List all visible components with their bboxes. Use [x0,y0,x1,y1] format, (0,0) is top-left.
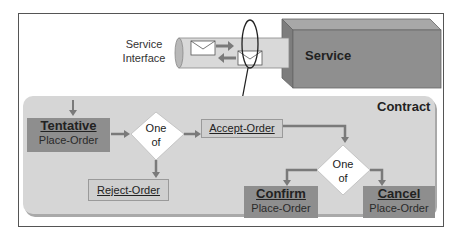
state-tentative[interactable]: Tentative Place-Order [27,118,110,152]
choice-label-2-line1: One [333,158,354,170]
state-cancel-subtitle: Place-Order [363,201,435,215]
choice-label-2: One of [328,157,358,185]
connector-accept-to-choice [282,126,349,143]
arrow-down-icon [69,100,77,116]
state-confirm-subtitle: Place-Order [244,201,318,215]
choice-label-2-line2: of [338,172,347,184]
state-tentative-subtitle: Place-Order [27,133,110,147]
action-accept-order[interactable]: Accept-Order [201,119,283,138]
arrow-right-icon [111,130,130,138]
choice-label-1-line1: One [146,122,167,134]
connector-choice-to-cancel [370,170,386,186]
state-cancel[interactable]: Cancel Place-Order [363,186,435,218]
state-tentative-title: Tentative [27,118,110,133]
state-confirm[interactable]: Confirm Place-Order [244,186,318,218]
state-confirm-title: Confirm [244,186,318,201]
arrow-down-icon [152,160,160,178]
connector-choice-to-confirm [283,170,317,186]
choice-label-1: One of [141,121,171,149]
action-reject-order[interactable]: Reject-Order [88,179,169,201]
arrow-right-icon [184,130,201,138]
state-cancel-title: Cancel [363,186,435,201]
choice-label-1-line2: of [151,136,160,148]
